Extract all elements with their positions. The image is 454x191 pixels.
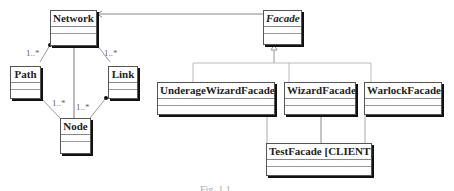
class-name: TestFacade [CLIENT]	[267, 144, 371, 160]
operations-section	[11, 90, 40, 96]
class-name: Network	[51, 11, 96, 27]
class-name: UnderageWizardFacade	[158, 83, 274, 99]
attributes-section	[365, 99, 441, 106]
class-wizard-facade[interactable]: WizardFacade	[284, 82, 356, 115]
operations-section	[365, 106, 441, 112]
class-test-facade[interactable]: TestFacade [CLIENT]	[266, 143, 372, 176]
multiplicity-link-node: 1..*	[76, 102, 90, 112]
attributes-section	[158, 99, 274, 106]
class-name: Node	[61, 119, 90, 135]
class-warlock-facade[interactable]: WarlockFacade	[364, 82, 442, 115]
class-name: Link	[109, 67, 137, 83]
attributes-section	[51, 27, 96, 34]
class-path[interactable]: Path	[10, 66, 41, 99]
class-name: WarlockFacade	[365, 83, 441, 99]
class-name: Facade	[264, 11, 301, 27]
class-link[interactable]: Link	[108, 66, 138, 99]
attributes-section	[264, 27, 301, 34]
class-underage-wizard-facade[interactable]: UnderageWizardFacade	[157, 82, 275, 115]
attributes-section	[11, 83, 40, 90]
multiplicity-path-node: 1..*	[52, 98, 66, 108]
operations-section	[109, 90, 137, 96]
class-facade[interactable]: Facade	[263, 10, 302, 45]
class-name: Path	[11, 67, 40, 83]
operations-section	[267, 167, 371, 173]
multiplicity-network-path: 1..*	[26, 48, 40, 58]
class-name: WizardFacade	[285, 83, 355, 99]
attributes-section	[285, 99, 355, 106]
multiplicity-network-link: 1..*	[104, 48, 118, 58]
attributes-section	[109, 83, 137, 90]
attributes-section	[61, 135, 90, 142]
operations-section	[61, 142, 90, 148]
class-node[interactable]: Node	[60, 118, 91, 154]
operations-section	[51, 34, 96, 40]
attributes-section	[267, 160, 371, 167]
operations-section	[264, 34, 301, 40]
class-network[interactable]: Network	[50, 10, 97, 46]
figure-caption: Fig. 1.1	[200, 184, 231, 191]
operations-section	[158, 106, 274, 112]
operations-section	[285, 106, 355, 112]
